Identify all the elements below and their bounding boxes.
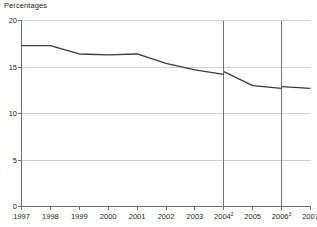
- x-tick-label-text: 2006: [272, 212, 289, 221]
- x-tick-label-2003: 2003: [187, 212, 204, 221]
- series-line-segment-1: [22, 46, 224, 75]
- series-line-segment-2: [224, 72, 282, 89]
- series-line-segment-3: [282, 87, 311, 89]
- x-tick-label-footnote-marker: 2: [231, 210, 234, 216]
- x-tick-label-text: 2005: [244, 212, 261, 221]
- x-tick-label-text: 2002: [158, 212, 175, 221]
- x-tick-label-2004: 20042: [214, 212, 233, 221]
- x-tick-label-1999: 1999: [71, 212, 88, 221]
- x-tick-label-text: 2003: [187, 212, 204, 221]
- x-tick-label-text: 1998: [42, 212, 59, 221]
- gridlines-group: [22, 21, 311, 161]
- y-tick-label-15: 15: [1, 63, 17, 72]
- line-chart: Percentages 05101520 1997199819992000200…: [0, 0, 317, 227]
- y-tick-label-10: 10: [1, 109, 17, 118]
- x-tick-label-text: 1997: [13, 212, 30, 221]
- plot-area: [0, 0, 317, 227]
- x-tick-label-text: 2004: [214, 212, 231, 221]
- x-tick-label-text: 2001: [129, 212, 146, 221]
- x-tick-label-text: 2007: [302, 212, 317, 221]
- x-tick-label-2005: 2005: [244, 212, 261, 221]
- x-tick-label-footnote-marker: 3: [289, 210, 292, 216]
- y-tick-label-5: 5: [1, 156, 17, 165]
- y-tick-label-0: 0: [1, 202, 17, 211]
- x-tick-label-2006: 20063: [272, 212, 291, 221]
- x-tick-label-2007: 2007: [302, 212, 317, 221]
- x-tick-label-2002: 2002: [158, 212, 175, 221]
- x-tick-label-text: 1999: [71, 212, 88, 221]
- x-tick-label-text: 2000: [100, 212, 117, 221]
- y-tick-label-20: 20: [1, 16, 17, 25]
- x-tick-label-1998: 1998: [42, 212, 59, 221]
- x-tick-label-2001: 2001: [129, 212, 146, 221]
- x-tick-label-2000: 2000: [100, 212, 117, 221]
- x-tick-label-1997: 1997: [13, 212, 30, 221]
